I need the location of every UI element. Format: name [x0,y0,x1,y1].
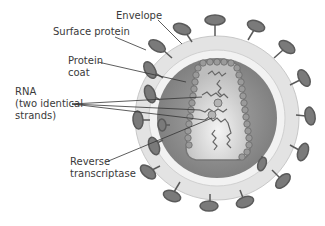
label-surface-protein: Surface protein [53,26,130,38]
reverse-transcriptase-particle [214,99,222,107]
label-rna: RNA (two identical strands) [15,86,83,122]
label-reverse-transcriptase: Reverse transcriptase [70,156,136,180]
label-protein-coat: Protein coat [68,55,103,79]
leader-surface-protein [115,37,146,50]
label-envelope: Envelope [116,10,162,22]
